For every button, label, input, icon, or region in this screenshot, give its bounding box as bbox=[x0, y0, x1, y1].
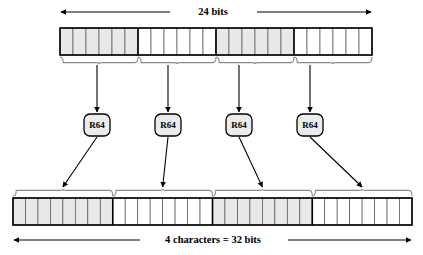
encoder-output-arrow bbox=[63, 137, 97, 187]
top-bar-cell bbox=[346, 28, 359, 55]
top-group-brace bbox=[60, 57, 138, 64]
top-bar-cell bbox=[333, 28, 346, 55]
bottom-bar-cell bbox=[213, 198, 225, 225]
encoder-nodes: R64R64R64R64 bbox=[84, 114, 323, 136]
bottom-bar-cell bbox=[275, 198, 287, 225]
top-bar-cell bbox=[177, 28, 190, 55]
top-group-brace bbox=[216, 57, 294, 64]
bottom-bar-group-braces bbox=[13, 189, 412, 196]
top-bar-cell bbox=[112, 28, 125, 55]
top-group-brace bbox=[138, 57, 216, 64]
encoder-label: R64 bbox=[302, 120, 318, 130]
encoder-node: R64 bbox=[84, 114, 110, 136]
diagram-canvas: 24 bits R64R64R64R64 4 characters = 32 b… bbox=[0, 0, 423, 255]
top-bar-cell bbox=[268, 28, 281, 55]
bottom-bar-cell bbox=[175, 198, 187, 225]
top-bar-cell bbox=[229, 28, 242, 55]
bottom-group-brace bbox=[13, 189, 113, 196]
bottom-bar-cell bbox=[237, 198, 249, 225]
top-dimension: 24 bits bbox=[61, 6, 371, 17]
bottom-bar-cell bbox=[337, 198, 349, 225]
top-bar-cell bbox=[242, 28, 255, 55]
bottom-bar-cell bbox=[325, 198, 337, 225]
top-bar-cell bbox=[73, 28, 86, 55]
top-bar-cell bbox=[164, 28, 177, 55]
bottom-bar-cell bbox=[262, 198, 274, 225]
bottom-bar-cell bbox=[163, 198, 175, 225]
top-bar-cell bbox=[216, 28, 229, 55]
input-arrows bbox=[97, 65, 310, 112]
bottom-bar-cell bbox=[25, 198, 37, 225]
bottom-bar-cell bbox=[312, 198, 324, 225]
bottom-group-brace bbox=[213, 189, 313, 196]
bottom-bar-cell bbox=[75, 198, 87, 225]
bottom-bar-cell bbox=[387, 198, 399, 225]
top-bar-cell bbox=[307, 28, 320, 55]
bottom-bar-cell bbox=[362, 198, 374, 225]
top-bar-cell bbox=[320, 28, 333, 55]
bottom-bar-cell bbox=[350, 198, 362, 225]
bottom-bar-cell bbox=[250, 198, 262, 225]
top-bar-cell bbox=[281, 28, 294, 55]
encoder-node: R64 bbox=[155, 114, 181, 136]
bottom-bar-cell bbox=[63, 198, 75, 225]
encoder-node: R64 bbox=[297, 114, 323, 136]
top-bar-cell bbox=[151, 28, 164, 55]
top-bar-cell bbox=[255, 28, 268, 55]
top-bar-cell bbox=[86, 28, 99, 55]
encoder-label: R64 bbox=[160, 120, 176, 130]
bottom-bar-cell bbox=[50, 198, 62, 225]
encoder-label: R64 bbox=[89, 120, 105, 130]
top-bar-cell bbox=[190, 28, 203, 55]
top-bar-cell bbox=[138, 28, 151, 55]
top-bar-cell bbox=[359, 28, 372, 55]
bottom-group-brace bbox=[312, 189, 412, 196]
bottom-bar-cell bbox=[138, 198, 150, 225]
bottom-bar-cell bbox=[13, 198, 25, 225]
bottom-bar-cell bbox=[225, 198, 237, 225]
encoder-output-arrow bbox=[239, 137, 262, 187]
encoder-output-arrow bbox=[163, 137, 168, 187]
bottom-bar-cell bbox=[200, 198, 212, 225]
top-dimension-label: 24 bits bbox=[198, 6, 227, 17]
bottom-group-brace bbox=[113, 189, 213, 196]
bottom-bar-cell bbox=[150, 198, 162, 225]
encoder-node: R64 bbox=[226, 114, 252, 136]
bottom-bar-cell bbox=[300, 198, 312, 225]
bottom-dimension-label: 4 characters = 32 bits bbox=[165, 234, 261, 245]
encoder-label: R64 bbox=[231, 120, 247, 130]
top-bar-cell bbox=[294, 28, 307, 55]
bottom-bar-cell bbox=[113, 198, 125, 225]
top-bar-cell bbox=[203, 28, 216, 55]
bottom-bar-cell bbox=[100, 198, 112, 225]
bottom-bar-cell bbox=[375, 198, 387, 225]
bottom-bar-cell bbox=[88, 198, 100, 225]
top-bar-cell bbox=[99, 28, 112, 55]
top-bar-cell bbox=[60, 28, 73, 55]
base64-encoding-diagram: 24 bits R64R64R64R64 4 characters = 32 b… bbox=[0, 0, 423, 255]
top-group-brace bbox=[294, 57, 372, 64]
bottom-bar-cell bbox=[400, 198, 412, 225]
bottom-bar-cell bbox=[38, 198, 50, 225]
top-bar-group-braces bbox=[60, 57, 372, 64]
top-bar-cell bbox=[125, 28, 138, 55]
bottom-dimension: 4 characters = 32 bits bbox=[14, 234, 411, 245]
encoder-output-arrow bbox=[310, 137, 362, 187]
bottom-bar-cell bbox=[287, 198, 299, 225]
bottom-bar-cell bbox=[125, 198, 137, 225]
bottom-bar-cell bbox=[188, 198, 200, 225]
output-arrows bbox=[63, 137, 362, 187]
